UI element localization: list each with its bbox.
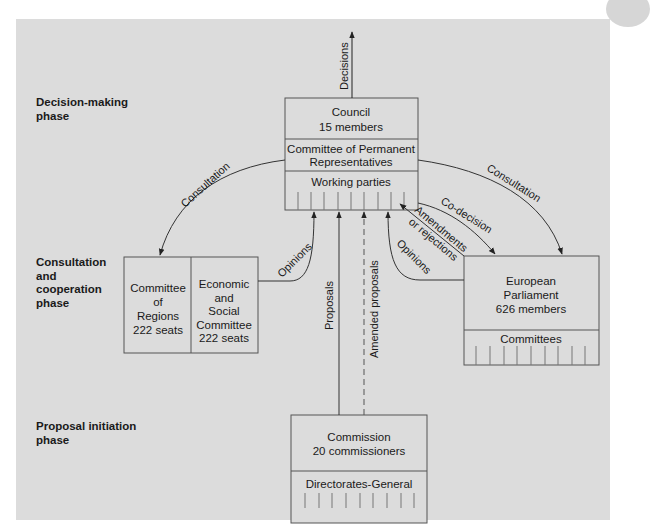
council-members: 15 members xyxy=(319,121,383,133)
coreper-line1: Committee of Permanent xyxy=(287,143,416,155)
coreper-line2: Representatives xyxy=(309,156,392,168)
consultation-left-arrow: Consultation xyxy=(160,160,285,255)
council-box: Council 15 members Committee of Permanen… xyxy=(285,98,418,210)
council-title: Council xyxy=(332,106,370,118)
ep-line1: European xyxy=(506,275,556,287)
cor-seats: 222 seats xyxy=(133,324,183,336)
working-parties: Working parties xyxy=(311,176,391,188)
esc-line4: Committee xyxy=(196,319,252,331)
decisions-arrow: Decisions xyxy=(338,32,352,98)
consultation-right-label: Consultation xyxy=(485,162,543,205)
ep-committees: Committees xyxy=(500,333,562,345)
opinions-left-label: Opinions xyxy=(275,240,315,280)
commission-members: 20 commissioners xyxy=(313,445,406,457)
esc-line2: and xyxy=(214,292,233,304)
cor-line2: of xyxy=(153,296,163,308)
cor-line1: Committee xyxy=(130,282,186,294)
proposals-label: Proposals xyxy=(323,281,335,330)
proposals-arrow: Proposals xyxy=(323,212,339,415)
parliament-box: European Parliament 626 members Committe… xyxy=(464,256,599,365)
opinions-left-arrow: Opinions xyxy=(258,212,314,281)
directorates-general: Directorates-General xyxy=(306,478,413,490)
amended-proposals-label: Amended proposals xyxy=(368,260,380,358)
commission-title: Commission xyxy=(327,431,390,443)
decisions-label: Decisions xyxy=(338,42,350,90)
committees-box: Committee of Regions 222 seats Economic … xyxy=(124,257,258,353)
amended-proposals-arrow: Amended proposals xyxy=(364,212,380,415)
consultation-left-label: Consultation xyxy=(178,160,231,210)
opinions-right-label: Opinions xyxy=(395,237,435,277)
commission-box: Commission 20 commissioners Directorates… xyxy=(291,415,427,523)
ep-line2: Parliament xyxy=(504,289,560,301)
esc-line1: Economic xyxy=(199,278,250,290)
esc-line3: Social xyxy=(208,305,239,317)
esc-seats: 222 seats xyxy=(199,332,249,344)
cor-line3: Regions xyxy=(137,310,179,322)
ep-members: 626 members xyxy=(496,303,567,315)
